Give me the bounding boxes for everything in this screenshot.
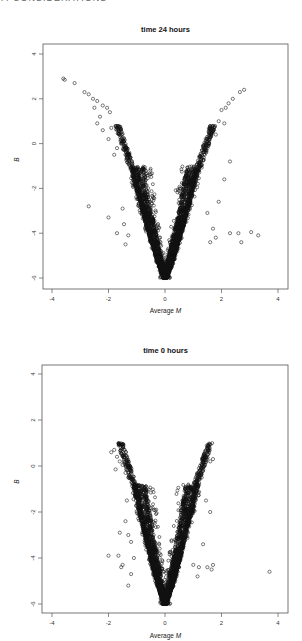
x-tick-label: -4	[49, 620, 55, 626]
volcano-plot-0h: time 0 hours 420-2-4-6-4-2024 B Average …	[0, 0, 302, 641]
y-axis-label: B	[13, 479, 20, 483]
x-tick-label: 4	[276, 620, 280, 626]
y-tick-label: 4	[30, 372, 36, 376]
x-axis-label: Average M	[43, 632, 288, 639]
y-tick-label: -4	[30, 555, 36, 561]
x-tick-label: 0	[163, 620, 167, 626]
y-tick-label: -2	[30, 509, 36, 515]
y-tick-label: 2	[30, 418, 36, 422]
x-tick-label: -2	[106, 620, 112, 626]
data-points	[107, 442, 271, 606]
plot-canvas: 420-2-4-6-4-2024	[0, 0, 302, 641]
y-tick-label: 0	[30, 464, 36, 468]
x-tick-label: 2	[220, 620, 224, 626]
y-tick-label: -6	[30, 601, 36, 607]
